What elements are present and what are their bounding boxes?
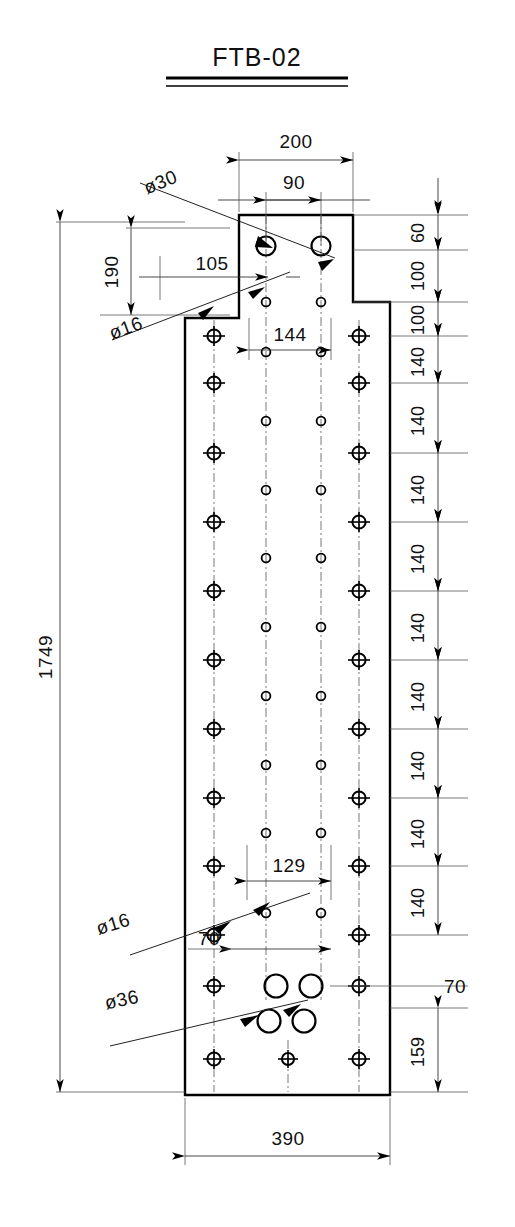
dimension-129: 129 [247,845,331,900]
plate-drawing-svg: FTB-02 [0,0,515,1227]
outer-column-holes-dia16 [203,326,370,1069]
dim-right-3: 140 [408,347,428,377]
hole-dia16 [203,719,225,739]
technical-drawing-canvas: FTB-02 [0,0,515,1227]
hole-dia36 [293,1010,316,1033]
hole-dia36 [265,975,288,998]
hole-dia36 [300,975,323,998]
hole-dia16 [348,326,370,346]
dimension-bottom-390: 390 [185,1098,390,1165]
hole-dia16 [203,326,225,346]
hole-dia16 [348,650,370,670]
dim-bottom-width-label: 390 [271,1128,304,1149]
callout-dia30-label: ø30 [141,166,181,198]
hole-dia16 [348,512,370,532]
dimension-105: 105 [139,253,300,300]
hole-dia16 [203,856,225,876]
dim-left-total-label: 1749 [35,635,56,679]
dim-right-4: 140 [408,406,428,436]
dim-129-label: 129 [272,855,305,876]
callout-dia30: ø30 [140,166,335,271]
dim-right-1: 100 [408,261,428,291]
dim-right-12: 70 [444,976,466,997]
bottom-holes-dia36 [258,975,323,1033]
dimension-right-chain: 60 100 100 140 140 140 140 140 140 140 1… [330,178,468,1092]
hole-dia16 [203,512,225,532]
hole-dia16 [203,373,225,393]
dim-right-8: 140 [408,682,428,712]
dim-right-7: 140 [408,613,428,643]
callout-dia36: ø36 [103,986,308,1046]
dim-top-inner-label: 90 [283,172,305,193]
dim-top-outer-label: 200 [279,131,312,152]
dim-right-5: 140 [408,475,428,505]
hole-dia16 [348,373,370,393]
dim-right-2: 100 [408,305,428,335]
dim-right-10: 140 [408,819,428,849]
dim-right-11: 140 [408,888,428,918]
hole-dia36 [258,1010,281,1033]
dim-offset-105-label: 105 [195,253,228,274]
dim-flange-drop-label: 190 [101,255,122,288]
dim-144-label: 144 [273,324,306,345]
hole-dia16 [348,925,370,945]
dimension-top-90: 90 [218,172,370,245]
hole-dia16 [348,856,370,876]
hole-dia16 [203,443,225,463]
callout-dia16-top: ø16 [106,272,290,344]
title-block: FTB-02 [166,43,348,86]
hole-dia16 [203,976,225,996]
hole-dia16 [203,581,225,601]
callout-dia16-bottom-label: ø16 [94,909,133,939]
inner-column-small-holes [262,298,326,918]
dimension-left-total: 1749 [35,222,185,1092]
hole-dia16 [203,1049,225,1069]
hole-dia16 [348,1049,370,1069]
hole-dia16 [203,788,225,808]
dim-right-9: 140 [408,751,428,781]
hole-dia16 [348,719,370,739]
hole-column-centerlines [214,215,359,1092]
dim-right-13: 159 [408,1037,428,1067]
dim-right-0: 60 [408,223,428,243]
hole-dia16 [348,443,370,463]
hole-dia16 [348,581,370,601]
bottom-center-hole [278,1050,298,1068]
page-title: FTB-02 [212,43,301,71]
dimension-70-interior: 70 [188,928,331,949]
callout-dia16-top-label: ø16 [106,312,145,343]
hole-dia16 [348,788,370,808]
hole-dia16 [203,650,225,670]
callout-dia36-label: ø36 [103,986,141,1014]
dim-right-6: 140 [408,544,428,574]
